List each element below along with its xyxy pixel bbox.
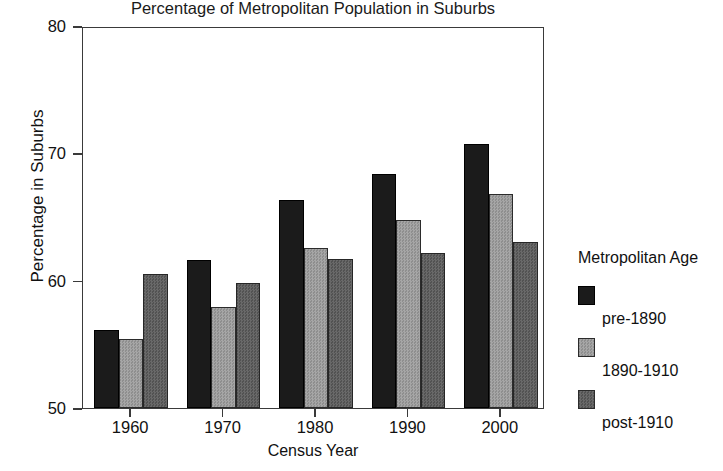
- y-tick-label: 60: [18, 271, 66, 291]
- bar-1990-pre-1890: [372, 174, 397, 408]
- legend-label-post-1910: post-1910: [602, 413, 673, 433]
- bar-2000-post-1910: [513, 242, 538, 408]
- x-tick-label: 1990: [362, 416, 452, 438]
- legend-swatch-pre-1890: [578, 286, 595, 305]
- y-tick-label: 70: [18, 143, 66, 163]
- bar-1990-1890-1910: [396, 220, 421, 408]
- legend-label-pre-1890: pre-1890: [602, 309, 666, 329]
- bars-container: [83, 28, 543, 408]
- bar-1960-pre-1890: [94, 330, 119, 408]
- bar-1980-post-1910: [328, 259, 353, 408]
- legend-entry-1890-1910[interactable]: 1890-1910: [577, 338, 723, 390]
- legend-label-1890-1910: 1890-1910: [602, 361, 679, 381]
- legend-swatch-1890-1910: [578, 338, 595, 357]
- bar-1960-1890-1910: [119, 339, 144, 408]
- chart-title: Percentage of Metropolitan Population in…: [82, 0, 544, 18]
- bar-1970-pre-1890: [187, 260, 212, 408]
- y-tick-mark: [73, 26, 82, 28]
- y-tick-mark: [73, 281, 82, 283]
- x-axis-title: Census Year: [82, 442, 544, 460]
- bar-1970-post-1910: [236, 283, 261, 408]
- legend-swatch-post-1910: [578, 390, 595, 409]
- x-tick-label: 1960: [85, 416, 175, 438]
- y-tick-mark: [73, 153, 82, 155]
- x-tick-label: 2000: [455, 416, 545, 438]
- bar-1990-post-1910: [421, 253, 446, 408]
- plot-area: [82, 27, 544, 409]
- chart-figure: Percentage of Metropolitan Population in…: [0, 0, 723, 471]
- legend-title: Metropolitan Age: [578, 248, 698, 268]
- x-tick-label: 1980: [270, 416, 360, 438]
- y-tick-label: 50: [18, 398, 66, 418]
- y-axis-title: Percentage in Suburbs: [28, 6, 48, 386]
- bar-1980-1890-1910: [304, 248, 329, 408]
- bar-1970-1890-1910: [211, 307, 236, 408]
- bar-1980-pre-1890: [279, 200, 304, 408]
- y-tick-label: 80: [18, 16, 66, 36]
- x-tick-label: 1970: [178, 416, 268, 438]
- bar-2000-1890-1910: [489, 194, 514, 408]
- bar-1960-post-1910: [143, 274, 168, 408]
- legend-entry-pre-1890[interactable]: pre-1890: [577, 286, 723, 338]
- y-tick-mark: [73, 408, 82, 410]
- legend-entry-post-1910[interactable]: post-1910: [577, 390, 723, 442]
- bar-2000-pre-1890: [464, 144, 489, 408]
